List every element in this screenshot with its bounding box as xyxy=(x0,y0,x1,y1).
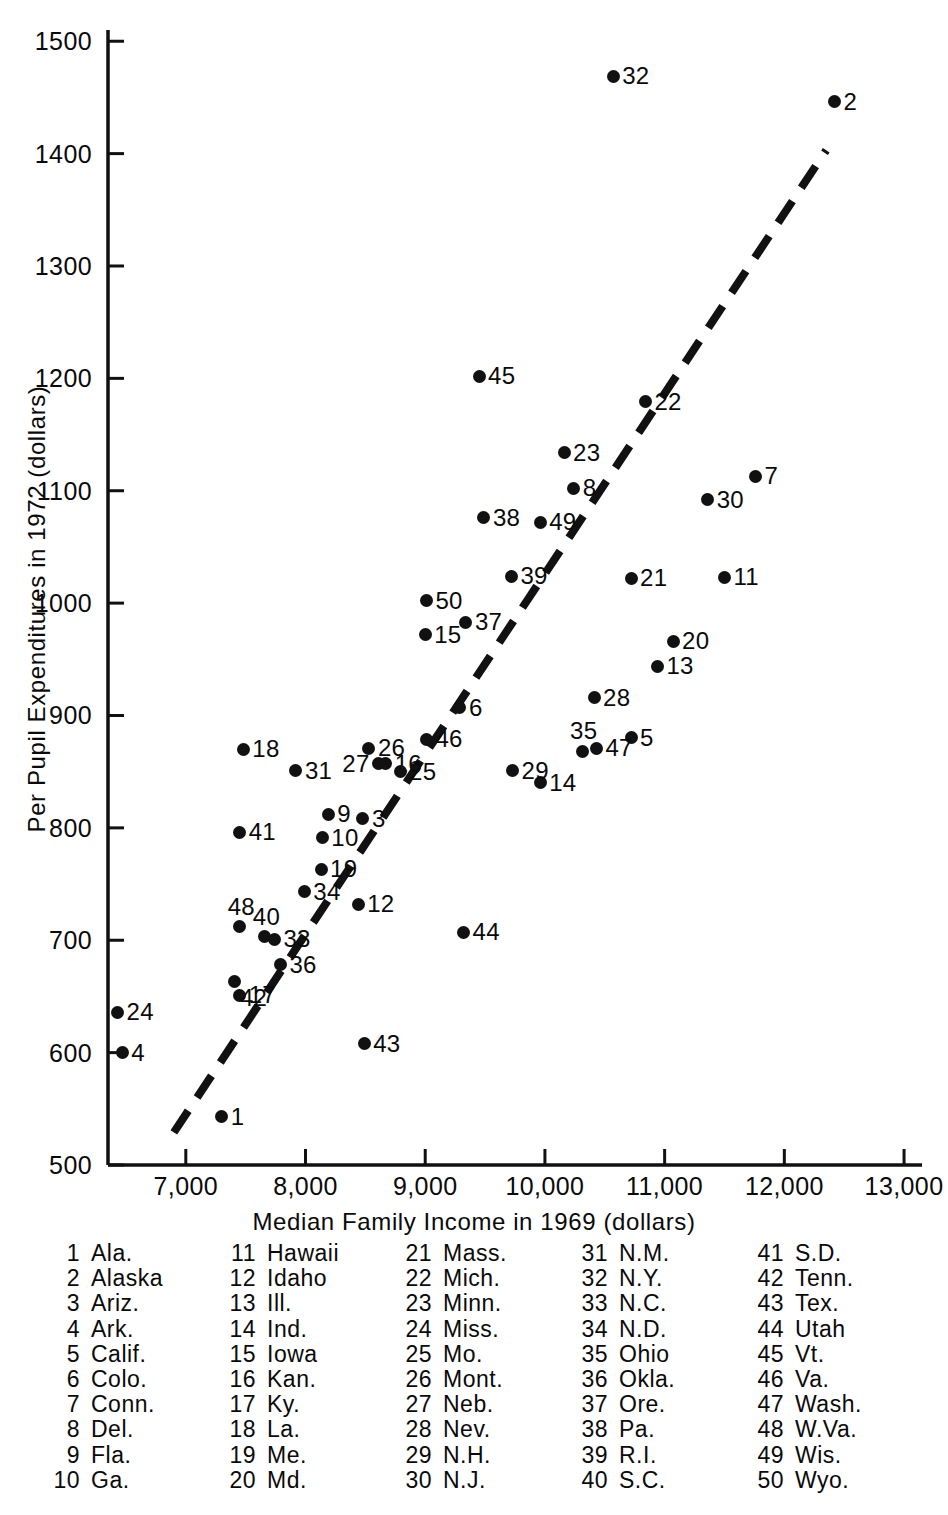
legend-item-name: Tex. xyxy=(795,1290,926,1317)
legend-item-number: 17 xyxy=(222,1391,256,1418)
point-label: 6 xyxy=(469,696,483,720)
point-marker xyxy=(651,660,664,673)
legend-item-number: 13 xyxy=(222,1290,256,1317)
point-label: 1 xyxy=(231,1105,245,1129)
point-marker xyxy=(607,70,620,83)
legend-item-name: W.Va. xyxy=(795,1416,926,1443)
legend-item-name: N.C. xyxy=(619,1290,750,1317)
legend-item-number: 32 xyxy=(574,1265,608,1292)
x-tick-label: 13,000 xyxy=(842,1172,948,1201)
legend-item-name: Colo. xyxy=(91,1366,222,1393)
y-tick-label: 1500 xyxy=(6,29,92,54)
x-axis-title: Median Family Income in 1969 (dollars) xyxy=(0,1208,948,1236)
legend-item-name: Nev. xyxy=(443,1416,574,1443)
legend-item-number: 28 xyxy=(398,1416,432,1443)
legend-item-name: S.D. xyxy=(795,1240,926,1267)
legend-item-number: 48 xyxy=(750,1416,784,1443)
legend-item-number: 37 xyxy=(574,1391,608,1418)
legend-item-24: 24Miss. xyxy=(398,1316,574,1341)
legend-item-9: 9Fla. xyxy=(46,1442,222,1467)
legend-item-7: 7Conn. xyxy=(46,1391,222,1416)
legend-item-name: Wyo. xyxy=(795,1467,926,1494)
point-label: 40 xyxy=(253,905,280,929)
legend-item-37: 37Ore. xyxy=(574,1391,750,1416)
point-marker xyxy=(505,570,518,583)
legend-item-number: 15 xyxy=(222,1341,256,1368)
legend-item-name: N.M. xyxy=(619,1240,750,1267)
legend-item-number: 45 xyxy=(750,1341,784,1368)
y-tick-label: 1400 xyxy=(6,142,92,167)
legend-item-number: 16 xyxy=(222,1366,256,1393)
point-label: 50 xyxy=(435,589,462,613)
legend-item-name: Ark. xyxy=(91,1316,222,1343)
legend-item-name: Minn. xyxy=(443,1290,574,1317)
point-marker xyxy=(419,628,432,641)
legend-item-20: 20Md. xyxy=(222,1467,398,1492)
point-marker xyxy=(352,898,365,911)
legend-item-18: 18La. xyxy=(222,1416,398,1441)
legend-item-42: 42Tenn. xyxy=(750,1265,926,1290)
legend-item-name: La. xyxy=(267,1416,398,1443)
legend-item-number: 36 xyxy=(574,1366,608,1393)
legend-item-number: 2 xyxy=(46,1265,80,1292)
legend-item-number: 43 xyxy=(750,1290,784,1317)
legend-column-5: 41S.D.42Tenn.43Tex.44Utah45Vt.46Va.47Was… xyxy=(750,1240,926,1492)
point-marker xyxy=(457,926,470,939)
legend-item-10: 10Ga. xyxy=(46,1467,222,1492)
legend-item-number: 34 xyxy=(574,1316,608,1343)
point-marker xyxy=(322,808,335,821)
legend-item-number: 29 xyxy=(398,1442,432,1469)
legend-item-name: Ariz. xyxy=(91,1290,222,1317)
legend-item-number: 3 xyxy=(46,1290,80,1317)
legend-item-number: 21 xyxy=(398,1240,432,1267)
point-label: 45 xyxy=(488,364,515,388)
legend-column-3: 21Mass.22Mich.23Minn.24Miss.25Mo.26Mont.… xyxy=(398,1240,574,1492)
legend-item-11: 11Hawaii xyxy=(222,1240,398,1265)
legend-item-31: 31N.M. xyxy=(574,1240,750,1265)
legend-item-48: 48W.Va. xyxy=(750,1416,926,1441)
point-label: 2 xyxy=(844,90,858,114)
point-label: 48 xyxy=(228,895,255,919)
point-label: 39 xyxy=(520,564,547,588)
legend-item-number: 35 xyxy=(574,1341,608,1368)
legend-item-name: N.H. xyxy=(443,1442,574,1469)
legend-item-name: Alaska xyxy=(91,1265,222,1292)
state-code-legend: 1Ala.2Alaska3Ariz.4Ark.5Calif.6Colo.7Con… xyxy=(0,1240,948,1492)
legend-item-4: 4Ark. xyxy=(46,1316,222,1341)
legend-item-number: 6 xyxy=(46,1366,80,1393)
point-marker xyxy=(558,446,571,459)
legend-item-5: 5Calif. xyxy=(46,1341,222,1366)
legend-column-4: 31N.M.32N.Y.33N.C.34N.D.35Ohio36Okla.37O… xyxy=(574,1240,750,1492)
point-marker xyxy=(315,863,328,876)
legend-item-number: 8 xyxy=(46,1416,80,1443)
legend-item-33: 33N.C. xyxy=(574,1290,750,1315)
legend-item-name: Del. xyxy=(91,1416,222,1443)
legend-item-39: 39R.I. xyxy=(574,1442,750,1467)
legend-item-name: Mo. xyxy=(443,1341,574,1368)
point-marker xyxy=(358,1037,371,1050)
legend-item-21: 21Mass. xyxy=(398,1240,574,1265)
point-label: 30 xyxy=(717,488,744,512)
point-marker xyxy=(237,743,250,756)
legend-item-number: 25 xyxy=(398,1341,432,1368)
legend-item-number: 47 xyxy=(750,1391,784,1418)
legend-item-40: 40S.C. xyxy=(574,1467,750,1492)
legend-item-14: 14Ind. xyxy=(222,1316,398,1341)
point-label: 49 xyxy=(549,510,576,534)
legend-item-number: 9 xyxy=(46,1442,80,1469)
point-label: 8 xyxy=(583,476,597,500)
legend-item-23: 23Minn. xyxy=(398,1290,574,1315)
point-label: 20 xyxy=(682,629,709,653)
legend-item-name: Md. xyxy=(267,1467,398,1494)
point-label: 42 xyxy=(240,986,267,1010)
legend-item-name: Vt. xyxy=(795,1341,926,1368)
legend-item-22: 22Mich. xyxy=(398,1265,574,1290)
legend-item-name: Conn. xyxy=(91,1391,222,1418)
legend-item-number: 11 xyxy=(222,1240,256,1267)
point-label: 24 xyxy=(127,1000,154,1024)
legend-item-number: 23 xyxy=(398,1290,432,1317)
point-marker xyxy=(420,733,433,746)
point-marker xyxy=(749,470,762,483)
point-marker xyxy=(625,572,638,585)
legend-item-name: Neb. xyxy=(443,1391,574,1418)
